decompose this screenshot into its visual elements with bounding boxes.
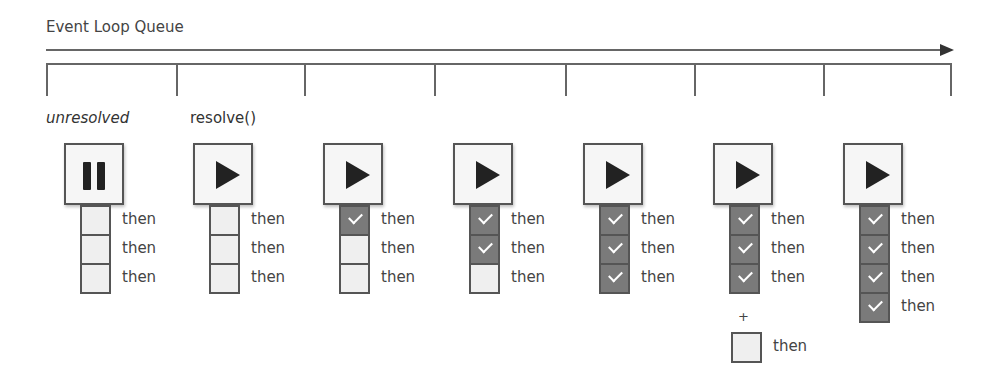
callback-queue: thenthenthen (469, 205, 500, 294)
then-label: then (511, 210, 545, 228)
callback-queue: thenthenthenthen (859, 205, 890, 323)
callback-queue: thenthenthen (209, 205, 240, 294)
callback-cell-pending: then (339, 263, 370, 294)
state-label-resolve: resolve() (190, 109, 256, 127)
promise-box (843, 143, 903, 205)
callback-cell-done: then (599, 263, 630, 294)
callback-cell-done: then (859, 263, 890, 294)
callback-cell-done: then (339, 205, 370, 236)
promise-box (583, 143, 643, 205)
state-label-unresolved: unresolved (46, 109, 129, 127)
promise-box (323, 143, 383, 205)
callback-cell-done: then (469, 205, 500, 236)
callback-cell-pending: then (80, 263, 111, 294)
callback-cell-pending: then (469, 263, 500, 294)
check-icon (868, 210, 883, 225)
then-label: then (381, 210, 415, 228)
callback-cell-pending: then (80, 234, 111, 265)
callback-cell-pending: then (209, 205, 240, 236)
check-icon (608, 239, 623, 254)
check-icon (738, 268, 753, 283)
check-icon (348, 210, 363, 225)
then-label: then (641, 210, 675, 228)
play-icon (736, 161, 760, 189)
check-icon (738, 239, 753, 254)
then-label: then (122, 239, 156, 257)
callback-cell-done: then (599, 234, 630, 265)
check-icon (608, 210, 623, 225)
callback-queue: thenthenthen (729, 205, 760, 294)
callback-cell-pending: then (339, 234, 370, 265)
callback-cell-done: then (859, 292, 890, 323)
callback-cell-done: then (729, 263, 760, 294)
timeline-tick (46, 63, 48, 96)
promise-box (193, 143, 253, 205)
check-icon (478, 210, 493, 225)
promise-box (713, 143, 773, 205)
timeline-tick (950, 63, 952, 96)
then-label: then (771, 268, 805, 286)
then-label: then (251, 268, 285, 286)
then-label: then (901, 297, 935, 315)
then-label: then (251, 210, 285, 228)
timeline-tick (176, 63, 178, 96)
timeline-tick (694, 63, 696, 96)
promise-box (64, 143, 124, 205)
check-icon (608, 268, 623, 283)
timeline-tick (434, 63, 436, 96)
callback-cell-done: then (859, 205, 890, 236)
play-icon (476, 161, 500, 189)
timeline-tick (565, 63, 567, 96)
then-label: then (511, 268, 545, 286)
timeline-tick (823, 63, 825, 96)
promise-box (453, 143, 513, 205)
then-label: then (901, 210, 935, 228)
timeline-bracket (46, 63, 952, 65)
plus-icon: + (738, 309, 749, 324)
callback-cell-pending: then (209, 234, 240, 265)
callback-queue: thenthenthen (339, 205, 370, 294)
then-label: then (901, 239, 935, 257)
then-label: then (381, 239, 415, 257)
play-icon (606, 161, 630, 189)
then-label: then (771, 239, 805, 257)
callback-cell-pending: then (80, 205, 111, 236)
arrow-head-icon (940, 44, 954, 56)
check-icon (868, 239, 883, 254)
diagram-title: Event Loop Queue (46, 18, 184, 36)
check-icon (868, 268, 883, 283)
check-icon (478, 239, 493, 254)
then-label: then (381, 268, 415, 286)
then-label: then (771, 210, 805, 228)
play-icon (866, 161, 890, 189)
callback-cell-done: then (469, 234, 500, 265)
timeline-arrow-line (46, 49, 944, 51)
then-label: then (641, 268, 675, 286)
callback-queue: thenthenthen (599, 205, 630, 294)
callback-queue: thenthenthen (80, 205, 111, 294)
then-label: then (901, 268, 935, 286)
check-icon (868, 297, 883, 312)
callback-cell-done: then (729, 205, 760, 236)
then-label: then (122, 268, 156, 286)
play-icon (346, 161, 370, 189)
check-icon (738, 210, 753, 225)
then-label: then (511, 239, 545, 257)
callback-cell-done: then (599, 205, 630, 236)
play-icon (216, 161, 240, 189)
then-label: then (251, 239, 285, 257)
callback-cell-pending: then (209, 263, 240, 294)
then-label: then (641, 239, 675, 257)
added-callback-cell: then (731, 332, 762, 363)
callback-cell-done: then (859, 234, 890, 265)
then-label: then (122, 210, 156, 228)
then-label: then (773, 337, 807, 355)
callback-cell-done: then (729, 234, 760, 265)
timeline-tick (304, 63, 306, 96)
